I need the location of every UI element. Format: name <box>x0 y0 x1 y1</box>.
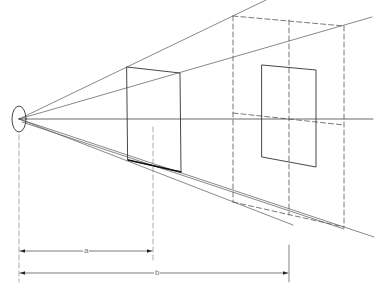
ray-bottom-2 <box>22 122 344 229</box>
near-plane-base <box>128 160 181 172</box>
near-plane <box>127 67 181 172</box>
dimension-label-b: b <box>154 269 160 277</box>
dimension-label-a: a <box>83 247 89 255</box>
ray-lower <box>19 119 374 237</box>
perspective-diagram: a b <box>0 0 386 302</box>
sight-rays <box>19 0 374 237</box>
diagram-svg <box>0 0 386 302</box>
ray-upper <box>19 17 372 119</box>
vertical-guides <box>19 127 153 282</box>
ray-top <box>19 0 266 119</box>
